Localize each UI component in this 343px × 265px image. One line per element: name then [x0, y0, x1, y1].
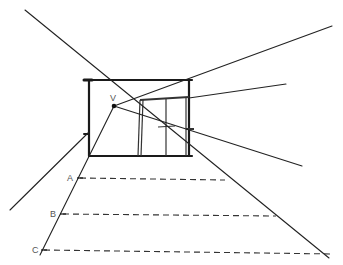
dashed-line-a [80, 178, 225, 180]
door-top-ray [189, 84, 286, 98]
marker-label-a: A [67, 173, 73, 183]
measurement-lines [44, 178, 333, 254]
door [138, 97, 194, 156]
marker-label-c: C [32, 245, 39, 255]
far-left-ray [10, 132, 89, 210]
vanishing-point-label: V [110, 93, 116, 103]
vanishing-point-dot [112, 104, 117, 109]
upper-right-ray [114, 26, 332, 106]
diagonal-ray [25, 10, 329, 258]
dashed-line-c [44, 250, 333, 254]
perspective-sketch: V A B C [0, 0, 343, 265]
marker-label-b: B [50, 209, 56, 219]
dashed-line-b [63, 214, 276, 216]
floor-left-ray [40, 106, 114, 255]
perspective-lines [10, 10, 332, 258]
